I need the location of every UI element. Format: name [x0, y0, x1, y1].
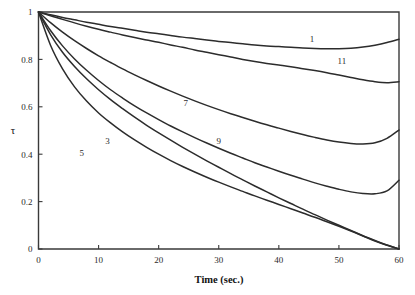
- curve-7: [39, 12, 400, 144]
- x-tick-label: 50: [334, 255, 344, 265]
- x-tick-label: 20: [154, 255, 164, 265]
- y-tick-label: 1: [28, 7, 33, 17]
- curve-label-5: 5: [80, 148, 85, 158]
- x-axis-title: Time (sec.): [195, 274, 244, 286]
- y-axis-tick-labels: 00.20.40.60.81: [21, 7, 33, 254]
- curve-3: [39, 12, 400, 249]
- chart-figure: 0102030405060 00.20.40.60.81 1357911 Tim…: [0, 0, 415, 295]
- x-tick-label: 60: [395, 255, 405, 265]
- x-tick-label: 30: [214, 255, 224, 265]
- curve-label-1: 1: [310, 34, 315, 44]
- x-axis-tick-labels: 0102030405060: [36, 255, 404, 265]
- curve-label-7: 7: [183, 98, 188, 108]
- y-tick-label: 0: [28, 244, 33, 254]
- y-tick-label: 0.8: [21, 55, 33, 65]
- x-tick-label: 40: [274, 255, 284, 265]
- y-tick-label: 0.6: [21, 102, 33, 112]
- curve-label-11: 11: [338, 56, 347, 66]
- axis-box: [39, 12, 400, 249]
- decay-curve-plot: 0102030405060 00.20.40.60.81 1357911 Tim…: [0, 0, 415, 295]
- plot-frame: [39, 12, 400, 249]
- axis-tick-marks: [39, 12, 400, 249]
- data-curves: [39, 12, 400, 249]
- curve-1: [39, 12, 400, 49]
- curve-label-9: 9: [217, 136, 222, 146]
- y-tick-label: 0.2: [21, 197, 32, 207]
- y-tick-label: 0.4: [21, 150, 33, 160]
- x-tick-label: 0: [36, 255, 41, 265]
- curve-label-3: 3: [105, 136, 110, 146]
- curve-5: [39, 12, 400, 249]
- y-axis-title: τ: [11, 124, 16, 136]
- x-tick-label: 10: [94, 255, 104, 265]
